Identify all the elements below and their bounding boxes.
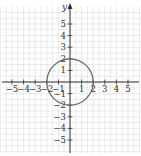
x-tick-label: 3 bbox=[102, 84, 107, 94]
y-tick-label: 2 bbox=[61, 54, 66, 64]
y-tick-label: −5 bbox=[53, 135, 66, 145]
y-axis-label: y bbox=[61, 2, 68, 12]
axes: y bbox=[2, 2, 139, 153]
x-tick-label: 4 bbox=[114, 84, 119, 94]
y-tick-label: −3 bbox=[53, 112, 66, 122]
coordinate-plane-chart: y −5−4−3−2−11234554321−1−2−3−4−5 bbox=[0, 0, 141, 156]
y-tick-label: −4 bbox=[53, 123, 66, 133]
y-tick-label: 5 bbox=[61, 19, 66, 29]
y-axis-arrow-icon bbox=[68, 3, 73, 9]
x-tick-label: 5 bbox=[125, 84, 130, 94]
y-tick-label: 4 bbox=[61, 31, 66, 41]
y-tick-label: −1 bbox=[53, 89, 66, 99]
x-tick-label: 1 bbox=[79, 84, 84, 94]
x-tick-label: 2 bbox=[90, 84, 95, 94]
y-tick-label: 3 bbox=[61, 42, 66, 52]
y-tick-label: −2 bbox=[53, 100, 66, 110]
y-tick-label: 1 bbox=[61, 65, 66, 75]
